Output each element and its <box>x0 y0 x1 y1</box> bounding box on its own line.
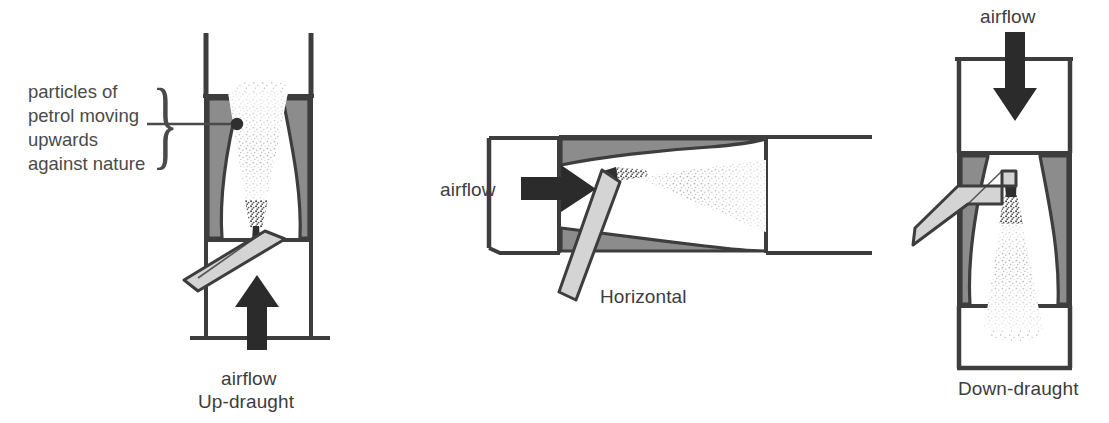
downdraught-spray-cone <box>984 195 1043 341</box>
diagram-horizontal <box>489 137 872 300</box>
callout-dot <box>231 118 243 130</box>
horizontal-airflow-label: airflow <box>440 178 496 201</box>
callout-line-1: particles of <box>28 80 117 105</box>
downdraught-airflow-label: airflow <box>980 5 1036 28</box>
callout-line-2: petrol moving <box>28 104 139 129</box>
updraught-caption: Up-draught <box>198 390 294 413</box>
arrow-down-icon <box>993 32 1037 121</box>
updraught-airflow-label: airflow <box>221 367 277 390</box>
diagram-down-draught <box>913 32 1073 368</box>
callout-line-3: upwards <box>28 128 98 153</box>
updraught-spray-cone <box>228 80 288 228</box>
carburettor-airflow-figure: particles of petrol moving upwards again… <box>0 0 1109 423</box>
diagram-up-draught <box>184 33 330 350</box>
downdraught-caption: Down-draught <box>958 377 1079 400</box>
horizontal-caption: Horizontal <box>600 285 687 308</box>
callout-line-4: against nature <box>28 152 145 177</box>
figure-vector-layer <box>0 0 1109 423</box>
callout-brace: } <box>152 74 178 174</box>
horizontal-spray-cone <box>614 160 766 232</box>
